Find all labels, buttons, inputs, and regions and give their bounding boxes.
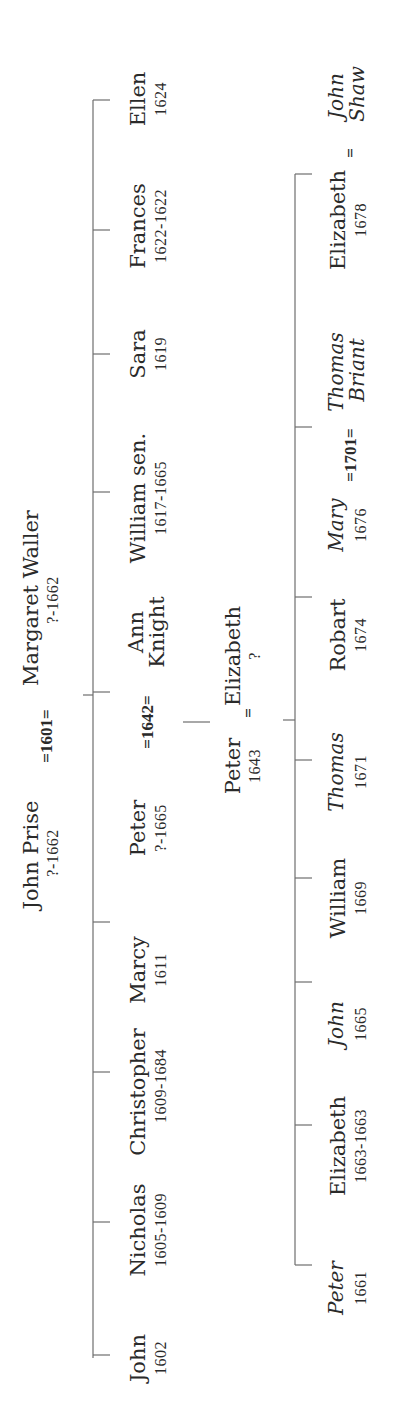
person-dates: 1611 <box>152 953 169 986</box>
person-peter-1643-dates: 1643 <box>246 749 263 783</box>
person-john-prise-name: John Prise <box>19 801 43 912</box>
marriage-gen3: = <box>239 708 258 718</box>
person-dates: 1663-1663 <box>352 1109 369 1183</box>
person-name: Nicholas <box>126 1183 150 1276</box>
generation-2: John 1602 Nicholas 1605-1609 Christopher… <box>124 72 169 1384</box>
person-elizabeth-gen3-dates: ? <box>246 652 263 660</box>
person-name: William <box>326 858 350 939</box>
person-name: Christopher <box>126 1027 150 1156</box>
generation-4-bracket <box>295 174 312 1265</box>
person-dates: 1674 <box>352 618 369 652</box>
generation-2-bracket <box>93 100 110 1358</box>
person-name: Robart <box>326 598 350 671</box>
spouse-thomas-briant-line2: Briant <box>345 337 369 402</box>
family-tree-diagram: John Prise ?-1662 =1601= Margaret Waller… <box>0 0 400 1406</box>
person-margaret-waller-name: Margaret Waller <box>19 509 43 686</box>
person-name: Elizabeth <box>326 1096 350 1196</box>
person-dates: 1665 <box>352 1007 369 1041</box>
person-dates: 1602 <box>152 1341 169 1375</box>
person-dates: 1676 <box>352 508 369 542</box>
marriage-1701: =1701= <box>341 428 360 481</box>
person-name: Peter <box>324 1260 348 1316</box>
marriage-shaw: = <box>341 148 360 158</box>
person-name: Ellen <box>126 72 150 127</box>
person-margaret-waller-dates: ?-1662 <box>44 576 61 623</box>
person-name: Elizabeth <box>326 170 350 270</box>
marriage-1642: =1642= <box>138 695 157 748</box>
person-dates: 1622-1622 <box>152 189 169 263</box>
generation-3: Peter 1643 = Elizabeth ? <box>221 606 295 794</box>
person-name: Peter <box>126 799 150 856</box>
person-dates: 1678 <box>352 203 369 237</box>
person-dates: 1624 <box>152 82 169 116</box>
person-name: William sen. <box>126 433 150 564</box>
person-dates: 1619 <box>152 337 169 371</box>
marriage-1601: =1601= <box>37 709 56 762</box>
person-dates: ?-1665 <box>152 804 169 851</box>
generation-4: Peter 1661 Elizabeth 1663-1663 John 1665… <box>324 66 369 1316</box>
person-name: Thomas <box>324 732 348 811</box>
person-name: John <box>324 1001 348 1051</box>
person-name: Sara <box>126 329 150 378</box>
person-dates: 1617-1665 <box>152 461 169 535</box>
rotated-tree: John Prise ?-1662 =1601= Margaret Waller… <box>19 66 369 1384</box>
person-elizabeth-gen3-name: Elizabeth <box>221 606 245 706</box>
person-name: Marcy <box>126 936 150 1004</box>
person-john-prise-dates: ?-1662 <box>44 829 61 876</box>
person-dates: 1605-1609 <box>152 1193 169 1267</box>
spouse-ann-line2: Knight <box>145 596 169 668</box>
person-name: Mary <box>324 498 348 553</box>
generation-1: John Prise ?-1662 =1601= Margaret Waller… <box>19 509 93 911</box>
person-name: John <box>126 1334 150 1384</box>
spouse-john-shaw-line2: Shaw <box>345 66 369 122</box>
person-dates: 1661 <box>352 1271 369 1305</box>
person-dates: 1609-1684 <box>152 1049 169 1123</box>
person-name: Frances <box>126 183 150 269</box>
person-dates: 1669 <box>352 881 369 915</box>
person-peter-1643-name: Peter <box>221 737 245 794</box>
person-dates: 1671 <box>352 755 369 789</box>
